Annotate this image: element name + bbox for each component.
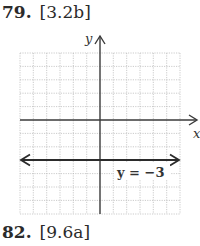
problem-82-heading: 82.[9.6a]: [2, 222, 90, 242]
problem-number: 82.: [2, 222, 32, 242]
coordinate-graph: y x y = −3: [0, 0, 200, 246]
section-reference: [9.6a]: [40, 222, 90, 242]
x-axis-label: x: [193, 126, 200, 141]
line-equation-label: y = −3: [116, 165, 164, 180]
y-axis-label: y: [84, 31, 93, 46]
